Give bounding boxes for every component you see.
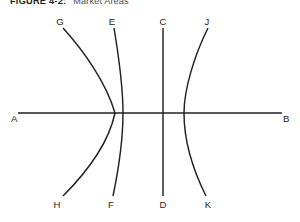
market-areas-diagram: A B G E C J H F D K bbox=[0, 0, 300, 222]
label-h: H bbox=[53, 199, 60, 210]
label-j: J bbox=[205, 16, 210, 27]
figure-container: FIGURE 4-2:Market Areas A B G E C J H F … bbox=[0, 0, 300, 222]
label-k: K bbox=[205, 199, 212, 210]
label-c: C bbox=[159, 16, 166, 27]
label-e: E bbox=[109, 16, 116, 27]
curve-jk bbox=[184, 28, 208, 196]
curve-gh bbox=[63, 28, 115, 196]
label-f: F bbox=[108, 199, 114, 210]
label-b: B bbox=[283, 113, 290, 124]
label-g: G bbox=[56, 16, 64, 27]
label-d: D bbox=[159, 199, 166, 210]
label-a: A bbox=[11, 113, 18, 124]
